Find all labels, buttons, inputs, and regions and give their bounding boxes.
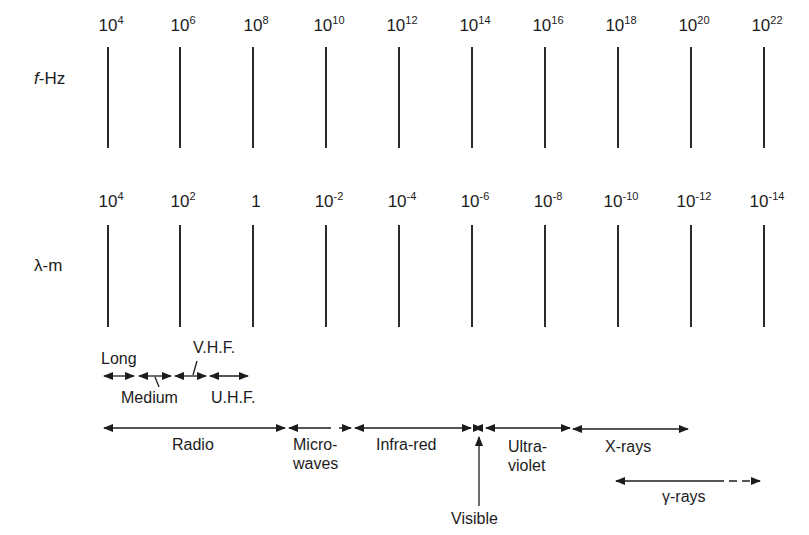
infrared-label: Infra-red [376,435,436,454]
microwaves-label-line2: waves [293,454,338,473]
band-arrows [0,0,809,535]
uhf-label: U.H.F. [211,388,255,407]
long-label: Long [101,349,137,368]
ultraviolet-label-line1: Ultra- [508,437,547,456]
vhf-label: V.H.F. [193,338,235,357]
medium-leader [155,377,159,387]
ultraviolet-label-line2: violet [508,456,547,475]
ultraviolet-label: Ultra- violet [508,437,547,475]
microwaves-label-line1: Micro- [293,435,338,454]
gamma-rays-label: γ-rays [662,487,706,506]
medium-label: Medium [121,388,178,407]
microwaves-label: Micro- waves [293,435,338,473]
visible-label: Visible [451,509,498,528]
radio-label: Radio [172,435,214,454]
xrays-label: X-rays [605,437,651,456]
vhf-leader [193,361,197,375]
